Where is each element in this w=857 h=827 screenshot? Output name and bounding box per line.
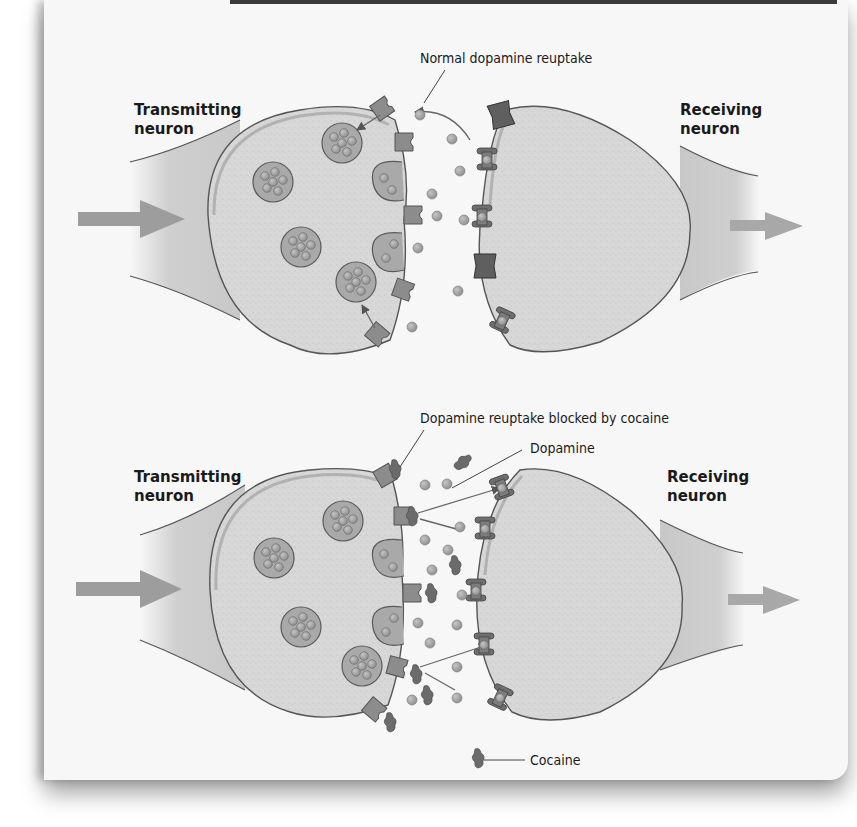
bottom-title: Dopamine reuptake blocked by cocaine bbox=[420, 410, 669, 426]
vesicle bbox=[336, 262, 376, 302]
cocaine-label: Cocaine bbox=[530, 752, 581, 768]
dopamine-label: Dopamine bbox=[530, 440, 595, 456]
vesicle bbox=[253, 162, 293, 202]
top-synapse: Normal dopamine reuptake Transmitting ne… bbox=[78, 50, 803, 354]
cocaine-molecules bbox=[421, 452, 474, 705]
dopamine-receptor bbox=[487, 101, 514, 130]
bottom-synapse: Dopamine reuptake blocked by cocaine Dop… bbox=[76, 410, 800, 768]
bottom-right-label-2: neuron bbox=[667, 487, 727, 505]
blocked-transporter bbox=[403, 584, 437, 604]
vesicle bbox=[322, 123, 362, 163]
vesicle bbox=[323, 501, 363, 541]
dopamine-transporter bbox=[395, 133, 413, 151]
vesicle bbox=[281, 227, 321, 267]
receiving-terminal bbox=[477, 469, 683, 720]
top-title: Normal dopamine reuptake bbox=[420, 50, 593, 66]
bottom-left-label: Transmitting bbox=[134, 468, 241, 486]
cocaine-legend-icon bbox=[472, 749, 484, 769]
dopamine-transporter bbox=[404, 206, 422, 224]
bottom-right-label: Receiving bbox=[667, 468, 749, 486]
vesicle bbox=[254, 538, 294, 578]
top-left-label: Transmitting bbox=[134, 101, 241, 119]
top-right-label: Receiving bbox=[680, 101, 762, 119]
dopamine-receptor bbox=[474, 254, 496, 278]
top-right-label-2: neuron bbox=[680, 120, 740, 138]
bottom-left-label-2: neuron bbox=[134, 487, 194, 505]
vesicle bbox=[281, 607, 321, 647]
vesicle bbox=[342, 646, 382, 686]
top-left-label-2: neuron bbox=[134, 120, 194, 138]
synapse-diagram: Normal dopamine reuptake Transmitting ne… bbox=[0, 0, 857, 827]
blocked-transporter bbox=[394, 507, 418, 527]
